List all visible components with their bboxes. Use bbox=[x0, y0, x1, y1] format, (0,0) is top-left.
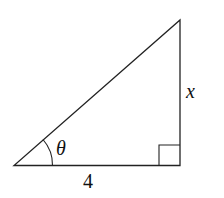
side-label-4: 4 bbox=[83, 170, 93, 193]
side-label-x: x bbox=[186, 80, 195, 103]
right-angle-marker bbox=[159, 145, 180, 166]
angle-label-theta: θ bbox=[56, 137, 66, 160]
triangle bbox=[14, 20, 180, 166]
angle-arc bbox=[43, 140, 53, 166]
right-triangle-diagram: θ x 4 bbox=[0, 0, 224, 198]
